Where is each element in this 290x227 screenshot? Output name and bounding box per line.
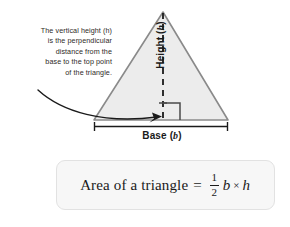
- annotation-text: The vertical height (h) is the perpendic…: [8, 26, 112, 78]
- formula-base-variable: b: [222, 177, 232, 194]
- annotation-line-3: distance from the: [8, 47, 112, 57]
- formula-label: Area of a triangle: [80, 177, 188, 194]
- height-label-paren-close: ): [155, 21, 166, 24]
- annotation-line-2-text: is the perpendicular: [48, 36, 112, 45]
- formula-times-sign: ×: [233, 179, 239, 191]
- annotation-line-3-text: distance from the: [56, 47, 112, 56]
- fraction-numerator: 1: [210, 172, 218, 183]
- annotation-line-5: of the triangle.: [8, 68, 112, 78]
- area-formula: Area of a triangle = 1 2 b × h: [80, 172, 251, 197]
- annotation-line-1: The vertical height (h): [8, 26, 112, 36]
- fraction-denominator: 2: [210, 187, 218, 198]
- formula-height-variable: h: [241, 177, 251, 194]
- annotation-line-1-text: The vertical height (h): [41, 26, 112, 35]
- base-label-word: Base: [142, 130, 166, 141]
- formula-panel: Area of a triangle = 1 2 b × h: [56, 160, 275, 210]
- annotation-line-5-text: of the triangle.: [65, 68, 112, 77]
- height-label-variable: h: [155, 25, 166, 31]
- base-label-paren-close: ): [178, 130, 181, 141]
- height-label-paren-open: (: [155, 30, 166, 33]
- annotation-line-4-text: base to the top point: [45, 57, 112, 66]
- annotation-line-4: base to the top point: [8, 57, 112, 67]
- formula-equals: =: [193, 177, 201, 194]
- base-label: Base(b): [92, 130, 232, 141]
- height-label: Height(h): [155, 9, 169, 81]
- annotation-line-2: is the perpendicular: [8, 36, 112, 46]
- height-label-word: Height: [155, 37, 166, 69]
- formula-fraction-one-half: 1 2: [210, 172, 219, 197]
- triangle-area-diagram: The vertical height (h) is the perpendic…: [0, 0, 290, 227]
